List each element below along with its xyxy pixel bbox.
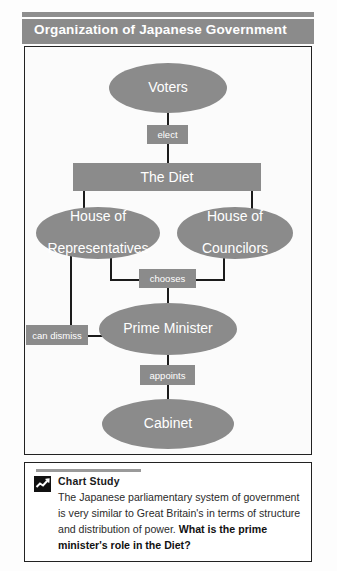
- edge-label-elect-text: elect: [157, 129, 177, 140]
- edge-label-appoints-text: appoints: [150, 370, 186, 381]
- page-root: Organization of Japanese Government Vote…: [0, 0, 337, 571]
- node-prime-minister[interactable]: Prime Minister: [99, 303, 237, 355]
- node-cabinet-label: Cabinet: [138, 416, 198, 432]
- node-house-of-representatives[interactable]: House ofRepresentatives: [36, 207, 160, 259]
- header-band: Organization of Japanese Government: [22, 19, 314, 44]
- node-house-of-representatives-label: House ofRepresentatives: [35, 209, 160, 256]
- node-prime-minister-label: Prime Minister: [117, 321, 218, 337]
- edge-label-can-dismiss[interactable]: can dismiss: [26, 325, 88, 345]
- node-house-of-councilors-label: House ofCouncilors: [190, 209, 280, 256]
- connector-representatives-to-can-dismiss: [70, 249, 72, 325]
- header-top-strip: [22, 12, 314, 17]
- edge-label-appoints[interactable]: appoints: [140, 365, 195, 385]
- chart-study-panel: Chart Study The Japanese parliamentary s…: [24, 462, 312, 562]
- edge-label-chooses[interactable]: chooses: [139, 269, 196, 288]
- chart-study-text: The Japanese parliamentary system of gov…: [58, 489, 302, 553]
- edge-label-can-dismiss-text: can dismiss: [32, 330, 82, 341]
- node-voters-label: Voters: [142, 80, 194, 96]
- chart-study-divider: [36, 469, 141, 472]
- node-the-diet-label: The Diet: [141, 169, 194, 185]
- line-chart-icon: [34, 476, 51, 492]
- node-cabinet[interactable]: Cabinet: [102, 399, 234, 449]
- edge-label-chooses-text: chooses: [150, 273, 185, 284]
- edge-label-elect[interactable]: elect: [147, 125, 188, 144]
- node-voters[interactable]: Voters: [109, 63, 227, 113]
- chart-study-heading: Chart Study: [58, 475, 120, 487]
- diagram-panel: Voters elect The Diet House ofRepresenta…: [24, 46, 312, 455]
- node-house-of-councilors[interactable]: House ofCouncilors: [177, 207, 293, 259]
- node-the-diet[interactable]: The Diet: [73, 163, 261, 191]
- page-title: Organization of Japanese Government: [34, 22, 287, 37]
